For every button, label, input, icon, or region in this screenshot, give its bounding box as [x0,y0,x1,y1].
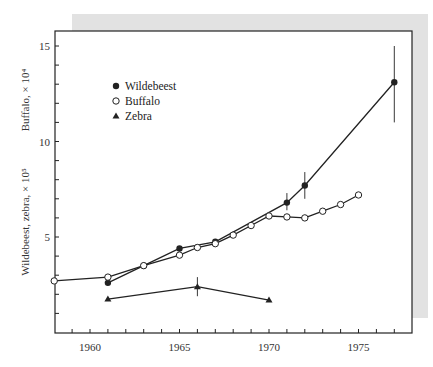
y-axis-title-lower: Wildebeest, zebra, × 10⁵ [19,168,31,276]
y-axis-title-upper: Buffalo, × 10⁴ [19,68,31,131]
open-circle-marker [302,215,308,221]
filled-circle-marker [284,199,290,205]
legend-label: Zebra [125,110,152,122]
open-circle-marker [230,232,236,238]
plot-area [55,31,412,333]
open-circle-marker [212,240,218,246]
open-circle-marker [337,201,343,207]
open-circle-marker [248,222,254,228]
open-circle-marker [141,262,147,268]
open-circle-marker [113,98,119,104]
legend-label: Buffalo [125,95,160,107]
x-tick-label: 1970 [258,341,281,353]
filled-circle-marker [176,245,182,251]
filled-circle-marker [391,79,397,85]
y-tick-label: 10 [39,136,51,148]
open-circle-marker [266,213,272,219]
y-tick-label: 5 [45,231,51,243]
y-tick-label: 15 [39,40,51,52]
legend-label: Wildebeest [125,80,177,92]
population-chart: 196019651970197551015 WildebeestBuffaloZ… [0,0,433,367]
x-tick-label: 1975 [348,341,371,353]
open-circle-marker [176,252,182,258]
open-circle-marker [194,244,200,250]
open-circle-marker [320,208,326,214]
open-circle-marker [284,214,290,220]
filled-circle-marker [113,83,119,89]
x-tick-label: 1960 [79,341,102,353]
open-circle-marker [51,278,57,284]
x-tick-label: 1965 [169,341,192,353]
open-circle-marker [105,274,111,280]
filled-circle-marker [302,182,308,188]
open-circle-marker [355,192,361,198]
